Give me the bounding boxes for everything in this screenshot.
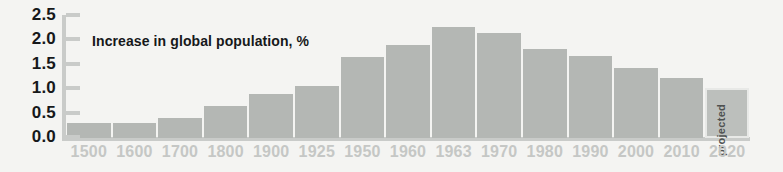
x-tick-label-2020: 2020 [704, 143, 750, 161]
bar-1950 [341, 57, 385, 138]
y-tick-label: 0.0 [0, 128, 56, 145]
x-tick-label-1925: 1925 [294, 143, 340, 161]
x-axis-labels: 1500160017001800190019251950196019631970… [66, 143, 750, 169]
bar-2000 [614, 68, 658, 138]
y-tick-label: 0.5 [0, 104, 56, 121]
bar-1980 [523, 49, 567, 138]
x-tick-label-2010: 2010 [659, 143, 705, 161]
x-tick-label-1600: 1600 [112, 143, 158, 161]
x-tick-label-1970: 1970 [476, 143, 522, 161]
bar-1900 [249, 94, 293, 138]
y-tick-mark [66, 37, 80, 41]
y-tick-mark [66, 111, 80, 115]
bar-2010 [660, 78, 704, 138]
y-axis-labels: 0.00.51.01.52.02.5 [0, 0, 56, 172]
x-tick-label-1963: 1963 [431, 143, 477, 161]
x-tick-label-1700: 1700 [157, 143, 203, 161]
y-tick-mark [66, 86, 80, 90]
bar-1970 [477, 33, 521, 138]
x-tick-label-2000: 2000 [613, 143, 659, 161]
bar-1800 [204, 106, 248, 138]
y-tick-label: 1.5 [0, 55, 56, 72]
bar-1700 [158, 118, 202, 138]
x-tick-label-1950: 1950 [340, 143, 386, 161]
x-tick-label-1960: 1960 [385, 143, 431, 161]
y-tick-label: 1.0 [0, 79, 56, 96]
bar-1990 [569, 56, 613, 138]
x-tick-label-1980: 1980 [522, 143, 568, 161]
y-tick-mark [66, 135, 80, 139]
y-tick-mark [66, 13, 80, 17]
x-tick-label-1900: 1900 [248, 143, 294, 161]
bar-1963 [432, 27, 476, 138]
bar-1960 [386, 45, 430, 138]
y-tick-label: 2.0 [0, 30, 56, 47]
bar-1600 [113, 123, 157, 138]
chart-title: Increase in global population, % [92, 33, 309, 49]
x-tick-label-1990: 1990 [568, 143, 614, 161]
y-tick-mark [66, 62, 80, 66]
y-tick-label: 2.5 [0, 6, 56, 23]
x-tick-label-1800: 1800 [203, 143, 249, 161]
x-tick-label-1500: 1500 [66, 143, 112, 161]
population-growth-bar-chart: 0.00.51.01.52.02.5 projected 15001600170… [0, 0, 783, 172]
bar-2020: projected [705, 88, 749, 138]
bar-1925 [295, 86, 339, 138]
